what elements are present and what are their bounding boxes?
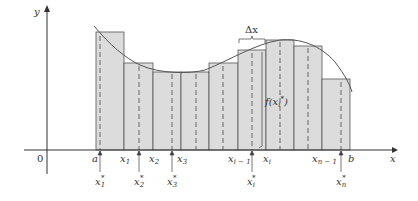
sample-label-xn: xn* bbox=[336, 174, 347, 189]
partition-label-x2: x2 bbox=[149, 153, 160, 166]
sample-label-x2: x2* bbox=[134, 174, 145, 189]
sample-label-x1: x1* bbox=[95, 174, 105, 189]
partition-label-a: a bbox=[92, 153, 98, 164]
delta-x-label: Δx bbox=[245, 24, 258, 35]
bar-9 bbox=[322, 79, 350, 150]
delta-x-brace bbox=[239, 36, 265, 43]
riemann-sum-figure: y x 0 Δx f(xi*) a x1 x2 x3 xi − 1 xi xn … bbox=[0, 0, 418, 201]
partition-label-x1: x1 bbox=[120, 153, 130, 166]
origin-label: 0 bbox=[37, 153, 43, 164]
partition-label-b: b bbox=[348, 153, 354, 164]
sample-arrows bbox=[98, 151, 343, 172]
partition-label-xi-1: xi − 1 bbox=[228, 153, 251, 166]
partition-label-xi: xi bbox=[263, 153, 271, 166]
x-axis-label: x bbox=[390, 153, 396, 164]
sample-label-xi: xi* bbox=[247, 174, 256, 189]
bar-3 bbox=[153, 72, 181, 150]
diagram-canvas: y x 0 Δx f(xi*) a x1 x2 x3 xi − 1 xi xn … bbox=[0, 0, 418, 201]
y-axis-arrow-icon bbox=[44, 5, 50, 12]
sample-label-x3: x3* bbox=[167, 174, 178, 189]
partition-label-x3: x3 bbox=[177, 153, 188, 166]
y-axis-label: y bbox=[33, 6, 40, 17]
partition-label-xn-1: xn − 1 bbox=[312, 153, 337, 166]
bar-4 bbox=[181, 72, 209, 150]
f-xi-star-label: f(xi*) bbox=[264, 95, 288, 109]
